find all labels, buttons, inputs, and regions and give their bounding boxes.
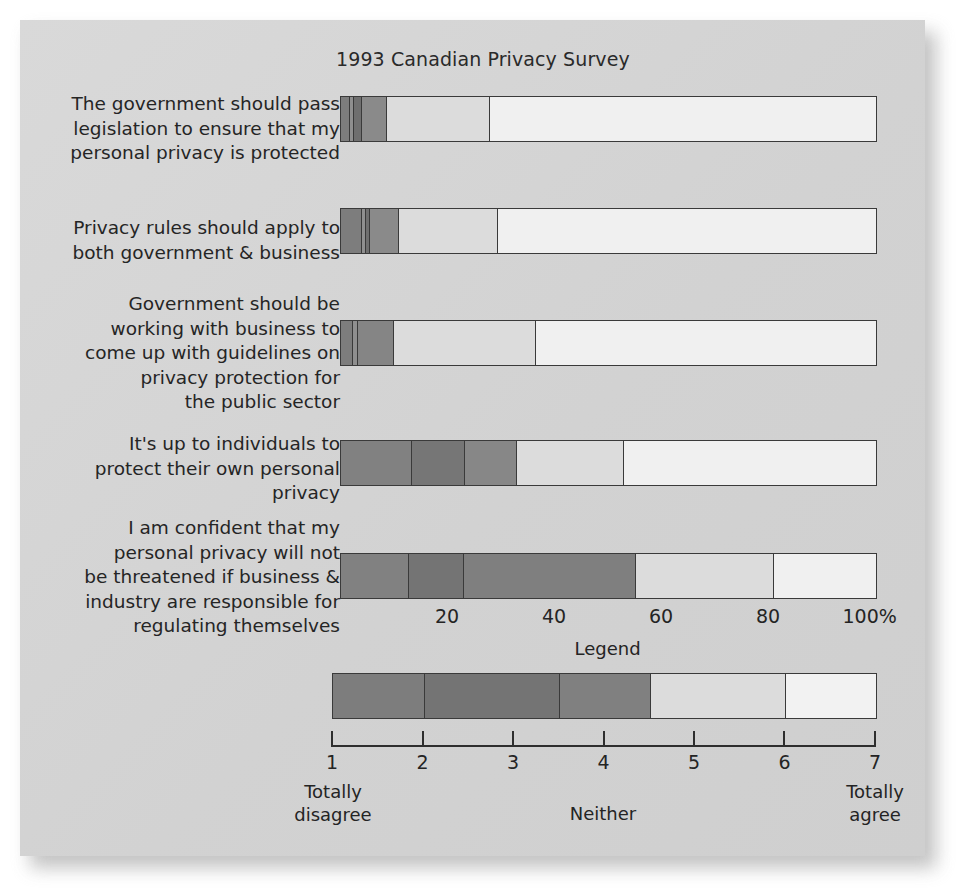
legend-title: Legend [340,638,875,659]
ruler-tick-5 [693,731,695,747]
bar-label-2-line-1: Privacy rules should apply to [30,216,340,241]
bar-3-segment-3 [357,321,394,365]
bar-2-segment-1 [341,209,361,253]
legend-scale-numbers: 1 2 3 4 5 6 7 [332,751,875,775]
stacked-bar-3 [340,320,877,366]
bar-label-5-line-4: industry are responsible for [30,590,340,615]
scale-high-anchor-line-2: agree [830,803,920,826]
bar-4-segment-5 [623,441,876,485]
bar-label-2-line-2: both government & business [30,241,340,266]
legend-segment-4 [650,674,786,718]
bar-4-segment-4 [516,441,623,485]
bar-label-4-line-2: protect their own personal [30,457,340,482]
bar-label-1-line-3: personal privacy is protected [30,141,340,166]
bar-1-segment-1 [341,97,349,141]
scale-number-2: 2 [416,751,428,773]
bar-label-2: Privacy rules should apply to both gover… [30,216,340,265]
scale-number-7: 7 [869,751,881,773]
x-tick-label-80: 80 [756,605,780,627]
bar-2-segment-5 [398,209,497,253]
scale-mid-anchor-label: Neither [543,803,663,824]
bar-label-3-line-2: working with business to [30,317,340,342]
scale-number-3: 3 [507,751,519,773]
bar-3-segment-4 [393,321,534,365]
x-tick-label-60: 60 [649,605,673,627]
scale-number-1: 1 [326,751,338,773]
bar-4-segment-3 [464,441,516,485]
bar-label-5-line-5: regulating themselves [30,614,340,639]
ruler-tick-1 [331,731,333,747]
bar-5-segment-4 [635,554,773,598]
ruler-tick-6 [783,731,785,747]
bar-5-segment-5 [773,554,876,598]
bar-5-segment-2 [408,554,463,598]
bar-label-3-line-4: privacy protection for [30,366,340,391]
bar-1-segment-3 [353,97,361,141]
scale-number-5: 5 [688,751,700,773]
scale-high-anchor-label: Totally agree [830,780,920,826]
bar-label-3-line-3: come up with guidelines on [30,341,340,366]
stacked-bar-4 [340,440,877,486]
bar-5-segment-3 [463,554,635,598]
bar-label-5-line-1: I am confident that my [30,516,340,541]
legend-segment-1 [333,674,424,718]
chart-title: 1993 Canadian Privacy Survey [336,48,630,70]
scale-number-6: 6 [778,751,790,773]
ruler-tick-7 [874,731,876,747]
bar-label-1-line-2: legislation to ensure that my [30,117,340,142]
x-tick-label-100: 100% [842,605,896,627]
ruler-tick-2 [422,731,424,747]
x-axis-percent-labels: 20 40 60 80 100% [340,605,875,631]
bar-3-segment-1 [341,321,352,365]
bar-3-segment-5 [535,321,876,365]
bar-1-segment-5 [386,97,488,141]
legend-bar [332,673,877,719]
bar-label-4-line-1: It's up to individuals to [30,432,340,457]
ruler-tick-3 [512,731,514,747]
scale-number-4: 4 [597,751,609,773]
legend-scale-ruler [332,731,875,747]
scale-low-anchor-line-1: Totally [288,780,378,803]
bar-label-3-line-5: the public sector [30,390,340,415]
stacked-bar-1 [340,96,877,142]
bar-4-segment-1 [341,441,411,485]
bar-label-5-line-3: be threatened if business & [30,565,340,590]
bar-1-segment-6 [489,97,876,141]
bar-2-segment-4 [369,209,398,253]
bar-label-4: It's up to individuals to protect their … [30,432,340,506]
legend-segment-3 [559,674,650,718]
bar-4-segment-2 [411,441,464,485]
x-tick-label-40: 40 [542,605,566,627]
bar-label-1: The government should pass legislation t… [30,92,340,166]
bar-label-5: I am confident that my personal privacy … [30,516,340,639]
bar-label-1-line-1: The government should pass [30,92,340,117]
scale-high-anchor-line-1: Totally [830,780,920,803]
chart-page: 1993 Canadian Privacy Survey The governm… [0,0,968,891]
stacked-bar-5 [340,553,877,599]
ruler-tick-4 [603,731,605,747]
stacked-bar-2 [340,208,877,254]
x-tick-label-20: 20 [435,605,459,627]
scale-low-anchor-line-2: disagree [288,803,378,826]
chart-panel: 1993 Canadian Privacy Survey The governm… [20,20,925,856]
scale-low-anchor-label: Totally disagree [288,780,378,826]
legend-segment-5 [785,674,876,718]
bar-label-3-line-1: Government should be [30,292,340,317]
bar-label-4-line-3: privacy [30,481,340,506]
bar-5-segment-1 [341,554,408,598]
bar-2-segment-6 [497,209,876,253]
legend-segment-2 [424,674,560,718]
bar-label-5-line-2: personal privacy will not [30,541,340,566]
bar-1-segment-4 [361,97,386,141]
bar-label-3: Government should be working with busine… [30,292,340,415]
